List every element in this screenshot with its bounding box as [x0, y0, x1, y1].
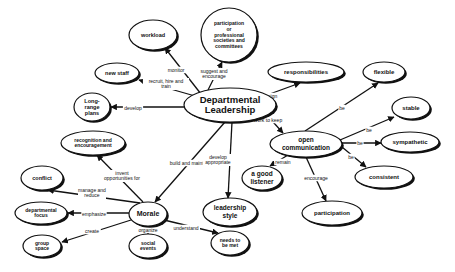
- node-label: Long-: [84, 98, 99, 104]
- node-open-comm[interactable]: opencommunication: [270, 131, 344, 159]
- node-label: events: [140, 245, 156, 251]
- node-consistent[interactable]: consistent: [355, 166, 415, 190]
- edge-label: emphasize: [81, 211, 106, 218]
- node-dept-focus[interactable]: departmentalfocus: [15, 202, 69, 226]
- node-needs-met[interactable]: needs tobe met: [211, 231, 251, 257]
- node-label: focus: [34, 212, 48, 218]
- edge-label: create: [83, 228, 101, 235]
- node-label: flexible: [374, 69, 395, 75]
- nodes-layer: DepartmentalLeadershipworkloadparticipat…: [15, 8, 441, 260]
- edge-label: be: [356, 140, 363, 147]
- edge-label-text: develop: [124, 105, 142, 111]
- node-responsibilities[interactable]: responsibilities: [268, 62, 346, 84]
- edge-label-text: be: [339, 105, 345, 111]
- node-flexible[interactable]: flexible: [363, 62, 407, 84]
- node-sympathetic[interactable]: sympathetic: [381, 132, 441, 154]
- node-label: encouragement: [74, 142, 112, 148]
- node-participation[interactable]: participation: [302, 201, 364, 227]
- edge-label-text: train: [161, 83, 171, 89]
- edge-label: developappropriate: [203, 154, 234, 166]
- node-morale[interactable]: Morale: [129, 202, 169, 228]
- node-new-staff[interactable]: new staff: [95, 63, 141, 85]
- node-social-events[interactable]: socialevents: [129, 234, 169, 260]
- node-label: range: [85, 104, 100, 110]
- edge-label-text: create: [85, 228, 99, 234]
- node-label: stable: [402, 105, 420, 111]
- node-label: new staff: [105, 70, 129, 76]
- node-long-range[interactable]: Long-rangeplans: [74, 93, 112, 123]
- edge-label-text: encourage: [202, 73, 226, 79]
- node-participation-prof[interactable]: participationorprofessionalsocieties and…: [201, 8, 259, 64]
- edge-label: recruit, hire andtrain: [143, 78, 189, 90]
- node-label: style: [223, 212, 238, 220]
- node-label: Morale: [137, 210, 160, 217]
- node-recognition[interactable]: recognition andencouragement: [61, 131, 127, 157]
- edge-label-text: monitor: [168, 67, 185, 73]
- edge-label-text: be: [357, 140, 363, 146]
- node-good-listener[interactable]: a goodlistener: [242, 166, 284, 192]
- node-conflict[interactable]: conflict: [21, 166, 65, 192]
- node-workload[interactable]: workload: [129, 20, 179, 52]
- edge-label: suggest andencourage: [199, 68, 230, 80]
- node-label: consistent: [369, 174, 399, 180]
- edge-label-text: appropriate: [205, 159, 231, 165]
- edge-label-text: reduce: [84, 192, 100, 198]
- edge-label-text: understand: [173, 225, 198, 231]
- node-label: workload: [140, 32, 165, 38]
- node-label: Leadership: [205, 104, 256, 115]
- edge-label: be: [365, 127, 372, 134]
- edge-label-text: be: [366, 127, 372, 133]
- node-dept[interactable]: DepartmentalLeadership: [184, 88, 278, 124]
- node-label: Departmental: [200, 94, 261, 105]
- node-label: conflict: [32, 175, 52, 181]
- edge-label: be: [338, 105, 345, 112]
- concept-map: monitorsuggest andencouragerecruit, hire…: [0, 0, 455, 272]
- edge-label: inventopportunities for: [99, 170, 145, 182]
- edge-label: remain: [274, 159, 292, 166]
- node-label: communication: [282, 144, 330, 151]
- node-label: sympathetic: [392, 139, 428, 145]
- node-group-space[interactable]: groupspace: [23, 235, 63, 259]
- edge-label-text: emphasize: [82, 211, 106, 217]
- edge-label: be: [347, 154, 354, 161]
- edge-label-text: opportunities for: [104, 175, 140, 181]
- edge-label: manage andreduce: [78, 187, 106, 199]
- node-leadership-style[interactable]: leadershipstyle: [203, 198, 259, 228]
- node-label: plans: [85, 110, 99, 116]
- edge-label-text: remain: [275, 159, 291, 165]
- node-stable[interactable]: stable: [392, 97, 432, 121]
- edge-label-text: be: [348, 154, 354, 160]
- node-label: listener: [250, 178, 274, 185]
- edge-label-text: encourage: [304, 175, 328, 181]
- node-label: be met: [222, 242, 238, 248]
- edge-label: understand: [172, 225, 200, 232]
- node-label: space: [35, 245, 49, 251]
- node-label: responsibilities: [284, 69, 329, 75]
- edge-label: develop: [123, 105, 143, 112]
- node-label: committees: [215, 43, 243, 49]
- edge-label: monitor: [166, 67, 186, 74]
- edge-label: encourage: [303, 175, 328, 182]
- node-label: participation: [314, 210, 350, 216]
